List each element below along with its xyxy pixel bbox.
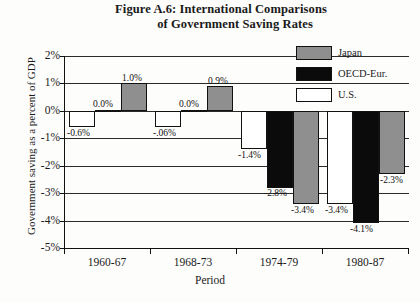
x-tick-label-1980-87: 1980-87 (325, 256, 405, 268)
bar-label-us-1980-87: -3.4% (325, 205, 348, 215)
legend-swatch-oecd-icon (296, 67, 332, 81)
figure-title-line-1: Figure A.6: International Comparisons (56, 2, 386, 17)
bar-japan-1974-79[interactable] (293, 111, 319, 204)
chart-legend: Japan OECD-Eur. U.S. (296, 44, 416, 107)
figure-container: Figure A.6: International Comparisons of… (0, 0, 420, 302)
bar-oecd-1974-79[interactable] (267, 111, 293, 188)
bar-label-us-1960-67: -0.6% (67, 128, 90, 138)
bar-us-1974-79[interactable] (241, 111, 267, 149)
y-axis-tick-labels: 2% 1% 0% -1% -2% -3% -4% -5% (18, 56, 60, 248)
bar-label-oecd-1960-67: 0.0% (93, 99, 113, 109)
figure-title-line-2: of Government Saving Rates (56, 17, 386, 32)
bar-us-1960-67[interactable] (69, 111, 95, 128)
bar-japan-1980-87[interactable] (379, 111, 405, 174)
bar-oecd-1968-73[interactable] (181, 110, 207, 111)
y-tick-label-n5: -5% (20, 242, 60, 253)
y-tick-label-n4: -4% (20, 215, 60, 226)
x-tickmark-0 (64, 248, 65, 254)
legend-label-japan: Japan (338, 46, 362, 60)
x-tickmark-3 (322, 248, 323, 254)
bar-label-oecd-1980-87: -4.1% (350, 224, 373, 234)
bar-label-japan-1968-73: 0.9% (208, 76, 228, 86)
y-tick-label-1: 1% (20, 77, 60, 88)
legend-item-oecd[interactable]: OECD-Eur. (296, 65, 416, 86)
x-tickmark-1 (150, 248, 151, 254)
legend-swatch-japan-icon (296, 46, 332, 60)
x-tick-label-1968-73: 1968-73 (153, 256, 233, 268)
x-tick-label-1960-67: 1960-67 (67, 256, 147, 268)
y-tick-label-2: 2% (20, 50, 60, 61)
bar-label-us-1968-73: -.06% (153, 128, 176, 138)
bar-group-1968-73: -.06% 0.0% 0.9% (151, 56, 237, 248)
bar-label-japan-1960-67: 1.0% (122, 73, 142, 83)
bar-us-1968-73[interactable] (155, 111, 181, 128)
x-tick-label-1974-79: 1974-79 (239, 256, 319, 268)
legend-label-oecd: OECD-Eur. (338, 67, 387, 81)
legend-item-japan[interactable]: Japan (296, 44, 416, 65)
y-tick-label-n1: -1% (20, 132, 60, 143)
figure-title: Figure A.6: International Comparisons of… (56, 2, 386, 32)
x-tickmark-4 (408, 248, 409, 254)
bar-oecd-1980-87[interactable] (353, 111, 379, 224)
y-tick-label-n3: -3% (20, 187, 60, 198)
y-tick-label-0: 0% (20, 105, 60, 116)
bar-oecd-1960-67[interactable] (95, 110, 121, 111)
legend-label-us: U.S. (338, 88, 357, 102)
x-axis-title: Period (0, 274, 420, 286)
legend-item-us[interactable]: U.S. (296, 86, 416, 107)
bar-label-us-1974-79: -1.4% (238, 150, 261, 160)
bar-label-japan-1980-87: -2.3% (380, 175, 403, 185)
bar-label-japan-1974-79: -3.4% (291, 205, 314, 215)
bar-japan-1968-73[interactable] (207, 86, 233, 111)
bar-group-1960-67: -0.6% 0.0% 1.0% (65, 56, 151, 248)
bar-label-oecd-1974-79: -2.8% (264, 188, 287, 198)
y-tick-label-n2: -2% (20, 160, 60, 171)
bar-japan-1960-67[interactable] (121, 83, 147, 111)
bar-label-oecd-1968-73: 0.0% (179, 99, 199, 109)
bar-us-1980-87[interactable] (327, 111, 353, 204)
x-tickmark-2 (236, 248, 237, 254)
legend-swatch-us-icon (296, 88, 332, 102)
